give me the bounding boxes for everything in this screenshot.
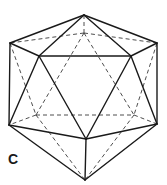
visible-edge — [9, 125, 85, 180]
visible-edge — [39, 56, 86, 139]
visible-edge — [39, 15, 84, 56]
visible-edge — [10, 15, 84, 43]
figure-label: C — [8, 152, 18, 166]
visible-edge — [85, 139, 86, 180]
visible-edge — [131, 43, 157, 56]
visible-edge — [10, 43, 39, 56]
visible-edge — [131, 56, 157, 124]
hidden-edge — [10, 43, 36, 115]
visible-edge — [9, 125, 86, 139]
hidden-edge — [36, 33, 84, 115]
hidden-edge — [84, 33, 157, 43]
visible-edge — [84, 15, 157, 43]
hidden-edge — [84, 33, 134, 115]
visible-edge — [86, 56, 131, 139]
icosahedron-drawing — [0, 0, 167, 185]
hidden-edge — [10, 33, 84, 43]
hidden-edges — [9, 15, 157, 180]
visible-edge — [9, 43, 10, 125]
hidden-edge — [134, 43, 157, 115]
visible-edge — [9, 56, 39, 125]
visible-edge — [84, 15, 131, 56]
icosahedron-figure: C — [0, 0, 167, 185]
